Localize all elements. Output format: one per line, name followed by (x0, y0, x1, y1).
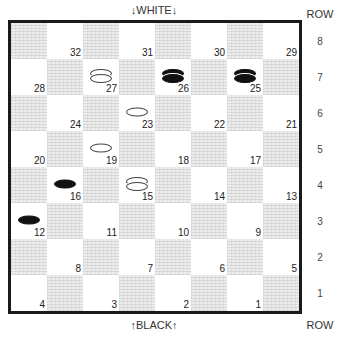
square-number: 2 (183, 299, 189, 310)
square-number: 8 (75, 263, 81, 274)
square-7: 7 (119, 239, 155, 275)
dark-square[interactable] (227, 239, 263, 275)
dark-square[interactable] (155, 239, 191, 275)
row-number: 2 (305, 252, 335, 263)
dark-square[interactable] (263, 59, 299, 95)
square-number: 13 (286, 191, 297, 202)
square-12: 12 (11, 203, 47, 239)
row-number: 6 (305, 108, 335, 119)
dark-square[interactable] (227, 23, 263, 59)
square-number: 23 (142, 119, 153, 130)
dark-square[interactable] (191, 131, 227, 167)
dark-square[interactable] (47, 131, 83, 167)
checker-disc-icon (126, 107, 148, 116)
square-number: 20 (34, 155, 45, 166)
square-1: 1 (227, 275, 263, 311)
dark-square[interactable] (47, 275, 83, 311)
dark-square[interactable] (227, 95, 263, 131)
row-header-top: ROW (305, 8, 335, 20)
square-32: 32 (47, 23, 83, 59)
square-number: 6 (219, 263, 225, 274)
white-king-piece[interactable] (126, 177, 148, 191)
dark-square[interactable] (263, 203, 299, 239)
square-29: 29 (263, 23, 299, 59)
checker-disc-icon (90, 143, 112, 152)
square-number: 22 (214, 119, 225, 130)
square-number: 14 (214, 191, 225, 202)
dark-square[interactable] (119, 275, 155, 311)
checker-disc-icon (126, 182, 148, 191)
dark-square[interactable] (83, 239, 119, 275)
dark-square[interactable] (155, 23, 191, 59)
square-21: 21 (263, 95, 299, 131)
dark-square[interactable] (119, 203, 155, 239)
square-number: 28 (34, 83, 45, 94)
square-number: 3 (111, 299, 117, 310)
square-9: 9 (227, 203, 263, 239)
dark-square[interactable] (263, 131, 299, 167)
row-number: 1 (305, 288, 335, 299)
white-piece[interactable] (90, 143, 112, 152)
dark-square[interactable] (47, 203, 83, 239)
black-king-piece[interactable] (234, 69, 256, 83)
square-19: 19 (83, 131, 119, 167)
dark-square[interactable] (191, 59, 227, 95)
square-22: 22 (191, 95, 227, 131)
square-16: 16 (47, 167, 83, 203)
square-20: 20 (11, 131, 47, 167)
dark-square[interactable] (11, 95, 47, 131)
square-28: 28 (11, 59, 47, 95)
square-31: 31 (119, 23, 155, 59)
square-number: 5 (291, 263, 297, 274)
square-10: 10 (155, 203, 191, 239)
dark-square[interactable] (191, 275, 227, 311)
white-side-label: ↓WHITE↓ (8, 4, 300, 16)
dark-square[interactable] (83, 23, 119, 59)
square-number: 18 (178, 155, 189, 166)
row-number: 8 (305, 36, 335, 47)
dark-square[interactable] (47, 59, 83, 95)
black-piece[interactable] (54, 179, 76, 188)
dark-square[interactable] (119, 59, 155, 95)
square-14: 14 (191, 167, 227, 203)
square-4: 4 (11, 275, 47, 311)
dark-square[interactable] (83, 167, 119, 203)
row-header-bottom: ROW (305, 319, 335, 331)
white-king-piece[interactable] (90, 69, 112, 83)
black-king-piece[interactable] (162, 69, 184, 83)
dark-square[interactable] (191, 203, 227, 239)
square-number: 9 (255, 227, 261, 238)
checker-disc-icon (18, 215, 40, 224)
square-2: 2 (155, 275, 191, 311)
dark-square[interactable] (227, 167, 263, 203)
checker-disc-icon (54, 179, 76, 188)
square-30: 30 (191, 23, 227, 59)
checker-disc-icon (234, 74, 256, 83)
square-number: 4 (39, 299, 45, 310)
dark-square[interactable] (83, 95, 119, 131)
dark-square[interactable] (11, 23, 47, 59)
square-24: 24 (47, 95, 83, 131)
row-number: 3 (305, 216, 335, 227)
dark-square[interactable] (155, 167, 191, 203)
square-number: 24 (70, 119, 81, 130)
white-piece[interactable] (126, 107, 148, 116)
square-number: 1 (255, 299, 261, 310)
square-number: 31 (142, 47, 153, 58)
dark-square[interactable] (155, 95, 191, 131)
square-11: 11 (83, 203, 119, 239)
square-number: 19 (106, 155, 117, 166)
dark-square[interactable] (119, 131, 155, 167)
dark-square[interactable] (11, 167, 47, 203)
square-number: 17 (250, 155, 261, 166)
square-13: 13 (263, 167, 299, 203)
dark-square[interactable] (11, 239, 47, 275)
square-27: 27 (83, 59, 119, 95)
black-piece[interactable] (18, 215, 40, 224)
dark-square[interactable] (263, 275, 299, 311)
square-23: 23 (119, 95, 155, 131)
checker-disc-icon (162, 74, 184, 83)
checkers-board: 3231302928272625242322212019181716151413… (8, 20, 302, 314)
square-number: 32 (70, 47, 81, 58)
square-number: 7 (147, 263, 153, 274)
